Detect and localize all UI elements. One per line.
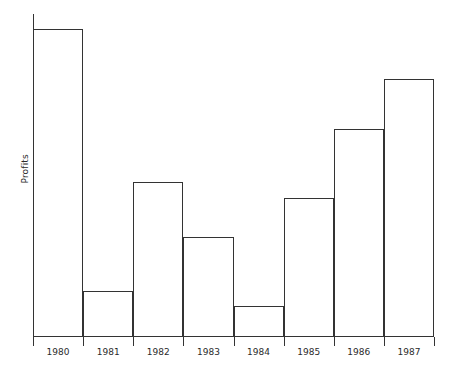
x-tick-1987: [384, 337, 385, 346]
x-tick-1982: [133, 337, 134, 346]
bar-chart-figure: Profits 19801981198219831984198519861987: [0, 0, 454, 373]
bar-1984[interactable]: [234, 306, 284, 336]
x-tick-1986: [334, 337, 335, 346]
x-tick-label-1980: 1980: [33, 347, 83, 357]
bars-layer: [33, 14, 434, 337]
x-axis-tick-labels: 19801981198219831984198519861987: [33, 347, 434, 363]
x-tick-label-1986: 1986: [334, 347, 384, 357]
y-axis-label: Profits: [0, 0, 30, 337]
x-tick-end: [434, 337, 435, 346]
bar-1987[interactable]: [384, 79, 434, 336]
bar-1982[interactable]: [133, 182, 183, 336]
x-tick-1980: [33, 337, 34, 346]
bar-1981[interactable]: [83, 291, 133, 336]
x-tick-label-1981: 1981: [83, 347, 133, 357]
bar-1986[interactable]: [334, 129, 384, 336]
x-tick-1984: [234, 337, 235, 346]
x-tick-1981: [83, 337, 84, 346]
bar-1983[interactable]: [183, 237, 233, 336]
x-tick-label-1984: 1984: [234, 347, 284, 357]
x-tick-label-1985: 1985: [284, 347, 334, 357]
x-axis-ticks: [33, 337, 434, 347]
x-tick-label-1983: 1983: [183, 347, 233, 357]
bar-1980[interactable]: [33, 29, 83, 336]
x-tick-1985: [284, 337, 285, 346]
x-tick-1983: [183, 337, 184, 346]
x-tick-label-1987: 1987: [384, 347, 434, 357]
x-tick-label-1982: 1982: [133, 347, 183, 357]
bar-1985[interactable]: [284, 198, 334, 336]
plot-area: [33, 14, 434, 337]
y-axis-label-text: Profits: [18, 154, 30, 184]
